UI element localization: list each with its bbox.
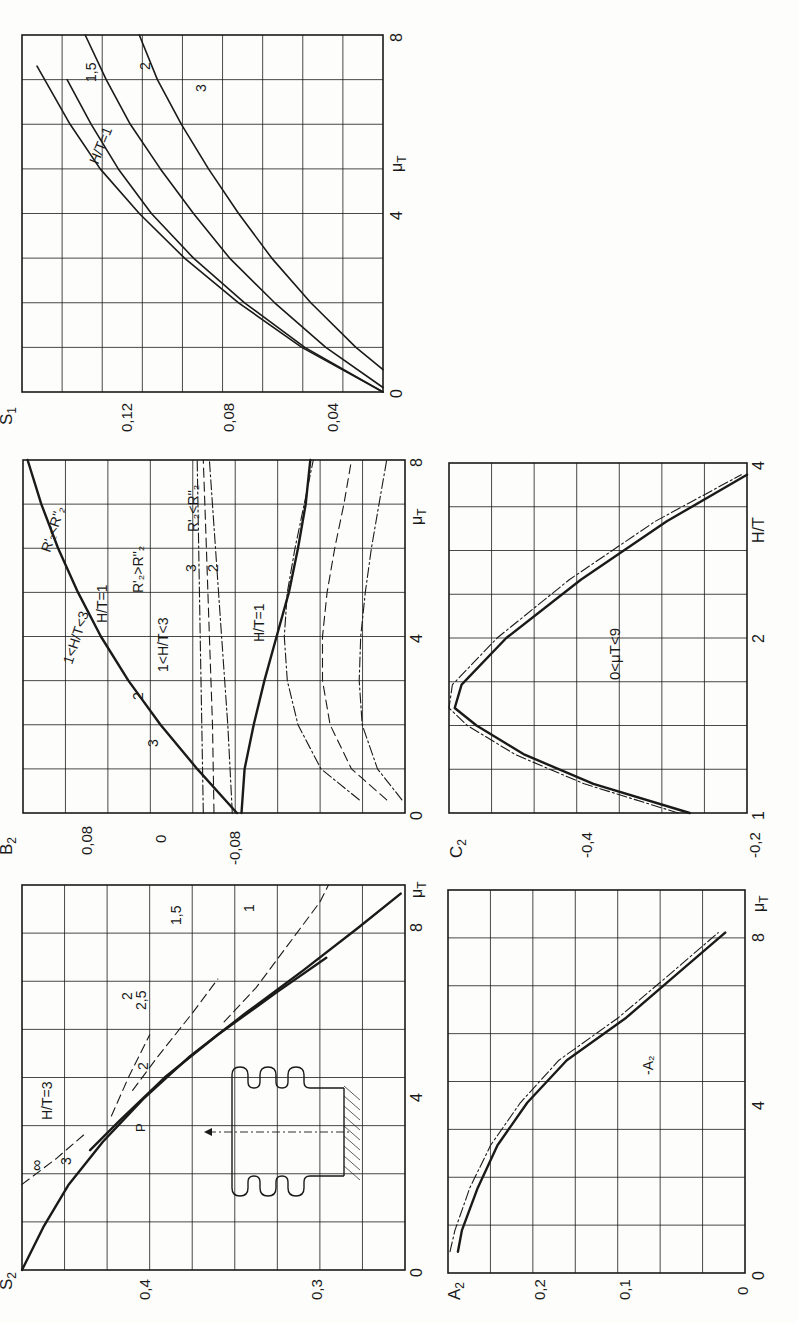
s1-curve-label-3: 3 [193, 84, 209, 92]
s1-ytick-012: 0,12 [118, 403, 135, 432]
force-arrow-icon [204, 1128, 212, 1136]
s2-ytick-03: 0,3 [308, 1279, 325, 1300]
s2-xtick-4: 4 [408, 1093, 425, 1102]
a2-y-axis-label: A2 [445, 1282, 467, 1300]
s2-force-label: P [133, 1123, 148, 1132]
data-series [22, 894, 401, 1270]
b2-ytick-0: 0 [152, 835, 169, 843]
b2-label-ht-range-bottom: 1<H/T<3 [155, 617, 171, 672]
data-series [67, 80, 383, 392]
c2-range-annotation: 0<μT<9 [606, 628, 623, 680]
a2-ytick-0: 0 [734, 1287, 751, 1295]
a2-label-neg: -A₂ [640, 1056, 656, 1075]
s2-label-2: 2 [119, 992, 135, 1000]
s1-y-axis-label: S1 [0, 407, 19, 425]
b2-label-r-lt-top: R'₂<R''₂ [38, 504, 68, 554]
b2-xtick-8: 8 [408, 458, 425, 467]
b2-xtick-0: 0 [408, 811, 425, 820]
s2-label-infinity: ∞ [28, 1160, 45, 1171]
b2-y-axis-label: B2 [0, 837, 19, 855]
data-series [37, 66, 383, 392]
bellows-diagram [204, 1067, 360, 1196]
s2-label-3: 3 [58, 1157, 74, 1165]
b2-label-3-upper: 3 [145, 739, 161, 747]
c2-xtick-4: 4 [750, 461, 767, 470]
fixed-support-hatch [344, 1086, 360, 1180]
data-series [458, 933, 725, 1252]
data-series [455, 475, 747, 813]
data-series [359, 460, 402, 800]
data-series [224, 885, 328, 1022]
a2-ytick-02: 0,2 [531, 1279, 548, 1300]
b2-label-2-lower: 2 [205, 564, 221, 572]
panel-c2 [449, 463, 747, 813]
s2-ytick-04: 0,4 [136, 1279, 153, 1300]
c2-ytick-04: -0,4 [578, 832, 595, 858]
s2-label-1: 1 [241, 904, 257, 912]
s1-curve-label-2: 2 [137, 62, 153, 70]
b2-label-ht-range-top: 1<H/T<3 [60, 609, 92, 666]
s2-label-25: 2,5 [133, 990, 149, 1010]
c2-x-axis-label: H/T [750, 517, 767, 543]
s1-curve-label-ht1: H/T=1 [86, 124, 115, 166]
panel-s2 [22, 885, 405, 1270]
s1-x-axis-label: μT [388, 155, 409, 172]
s1-curve-label-15: 1,5 [83, 62, 99, 82]
s1-ytick-008: 0,08 [220, 403, 237, 432]
b2-x-axis-label: μT [408, 508, 429, 525]
b2-label-2-upper: 2 [130, 692, 146, 700]
a2-xtick-8: 8 [750, 933, 767, 942]
s2-label-ht3: H/T=3 [39, 1081, 55, 1120]
c2-ytick-02: -0,2 [746, 832, 763, 858]
c2-xtick-1: 1 [750, 811, 767, 820]
data-series [90, 958, 326, 1150]
b2-ytick-pos: 0,08 [78, 826, 95, 855]
s1-xtick-8: 8 [388, 33, 405, 42]
s1-xtick-4: 4 [388, 211, 405, 220]
b2-label-r-gt: R'₂>R''₂ [130, 546, 146, 593]
panel-a2-labels: A2 0,2 0,1 0 0 4 8 μT -A₂ [445, 895, 771, 1300]
s2-label-2-inset: 2 [135, 1062, 151, 1070]
b2-label-ht1-top: H/T=1 [94, 584, 110, 623]
a2-x-axis-label: μT [750, 895, 771, 912]
s2-label-15: 1,5 [168, 905, 184, 925]
data-series [449, 475, 741, 813]
data-series [323, 460, 387, 800]
b2-label-3-lower: 3 [183, 564, 199, 572]
s2-xtick-8: 8 [408, 923, 425, 932]
s1-xtick-0: 0 [388, 389, 405, 398]
panel-c2-labels: C2 -0,4 -0,2 1 2 4 H/T 0<μT<9 [447, 461, 767, 858]
s2-xtick-0: 0 [408, 1268, 425, 1277]
b2-ytick-neg: -0,08 [226, 831, 243, 865]
panel-a2 [448, 890, 745, 1273]
b2-label-r-lt-bottom: R'₂<R''₂ [185, 485, 201, 532]
a2-ytick-01: 0,1 [616, 1279, 633, 1300]
c2-y-axis-label: C2 [447, 839, 469, 858]
c2-xtick-2: 2 [750, 634, 767, 643]
figure-canvas: S1 0,12 0,08 0,04 0 4 8 μT H/T=1 1,5 2 3… [0, 0, 798, 1323]
bellows-outline [232, 1067, 344, 1196]
data-series [85, 35, 383, 388]
b2-xtick-4: 4 [408, 634, 425, 643]
a2-xtick-0: 0 [750, 1271, 767, 1280]
figure-page: S1 0,12 0,08 0,04 0 4 8 μT H/T=1 1,5 2 3… [0, 0, 798, 1323]
panel-b2-labels: B2 0,08 0 -0,08 0 4 8 μT R'₂<R''₂ 1<H/T<… [0, 458, 429, 865]
data-series [284, 460, 359, 800]
a2-xtick-4: 4 [750, 1101, 767, 1110]
s1-ytick-004: 0,04 [324, 403, 341, 432]
s2-y-axis-label: S2 [0, 1272, 19, 1290]
s2-x-axis-label: μT [408, 881, 429, 898]
b2-label-ht1-bottom: H/T=1 [251, 603, 267, 642]
